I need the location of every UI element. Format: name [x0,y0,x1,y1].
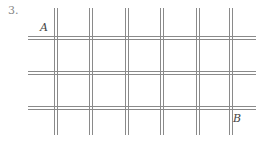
point-a-label: A [40,21,48,34]
point-b-label: B [233,112,241,125]
